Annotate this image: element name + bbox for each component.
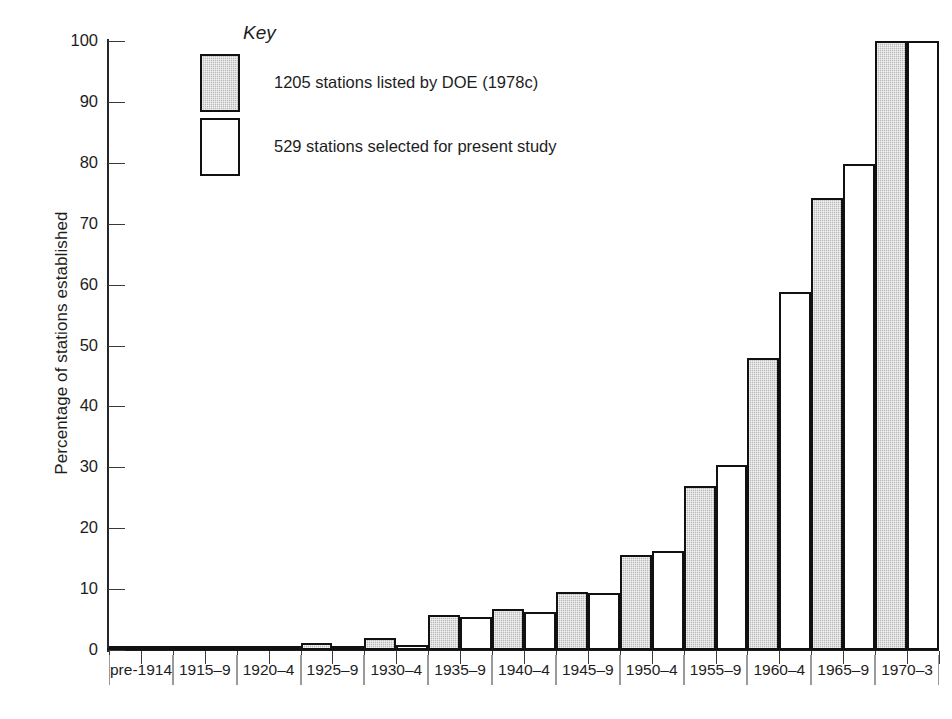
bar-open <box>588 593 620 650</box>
y-tick-label: 60 <box>52 275 98 294</box>
y-tick-label: 50 <box>52 336 98 355</box>
bar-shaded <box>684 486 716 650</box>
bar-open <box>524 612 556 650</box>
bar-shaded <box>364 638 396 650</box>
bar-open <box>460 617 492 650</box>
legend-swatch-shaded-icon <box>200 54 240 112</box>
x-axis-labels: pre-19141915–91920–41925–91930–41935–919… <box>109 655 939 689</box>
bar-open <box>652 551 684 650</box>
bar-shaded <box>556 592 588 650</box>
bar-shaded <box>747 358 779 650</box>
x-axis-label: 1965–9 <box>811 655 875 685</box>
bar-group <box>684 41 748 650</box>
x-axis-label: 1915–9 <box>173 655 237 685</box>
y-tick-label: 0 <box>52 640 98 659</box>
x-tick <box>939 651 940 664</box>
y-tick-label: 80 <box>52 153 98 172</box>
bar-group <box>747 41 811 650</box>
x-axis-label: 1945–9 <box>556 655 620 685</box>
y-tick-label: 10 <box>52 579 98 598</box>
legend-item-open: 529 stations selected for present study <box>200 118 670 182</box>
bar-chart-figure: Percentage of stations established 01020… <box>0 0 952 719</box>
bar-shaded <box>109 646 141 650</box>
y-tick-label: 40 <box>52 396 98 415</box>
x-axis-label: pre-1914 <box>109 655 173 685</box>
bar-open <box>141 646 173 650</box>
legend-label-open: 529 stations selected for present study <box>274 137 557 156</box>
y-tick-label: 20 <box>52 518 98 537</box>
bar-shaded <box>428 615 460 650</box>
bar-group <box>109 41 173 650</box>
bar-shaded <box>620 555 652 650</box>
y-tick-label: 30 <box>52 457 98 476</box>
legend-item-shaded: 1205 stations listed by DOE (1978c) <box>200 54 670 118</box>
y-tick-label: 70 <box>52 214 98 233</box>
bar-shaded <box>811 198 843 650</box>
x-axis-label: 1950–4 <box>620 655 684 685</box>
bar-shaded <box>492 609 524 650</box>
bar-shaded <box>237 646 269 650</box>
bar-open <box>269 646 301 650</box>
bar-open <box>332 646 364 650</box>
bar-shaded <box>173 646 205 650</box>
x-axis-label: 1925–9 <box>301 655 365 685</box>
bar-shaded <box>875 41 907 650</box>
legend-label-shaded: 1205 stations listed by DOE (1978c) <box>274 73 538 92</box>
x-axis-label: 1940–4 <box>492 655 556 685</box>
x-axis-label: 1970–3 <box>875 655 939 685</box>
legend-swatch-open-icon <box>200 118 240 176</box>
bar-open <box>843 164 875 650</box>
bar-open <box>396 645 428 650</box>
bar-group <box>875 41 939 650</box>
y-tick-label: 100 <box>52 31 98 50</box>
legend: Key 1205 stations listed by DOE (1978c) … <box>200 22 670 182</box>
x-axis-label: 1930–4 <box>364 655 428 685</box>
legend-title: Key <box>243 22 670 44</box>
bar-open <box>779 292 811 650</box>
bar-group <box>811 41 875 650</box>
x-axis-label: 1935–9 <box>428 655 492 685</box>
x-axis-label: 1960–4 <box>747 655 811 685</box>
y-tick-label: 90 <box>52 92 98 111</box>
bar-open <box>907 41 939 650</box>
bar-shaded <box>301 643 333 650</box>
bar-open <box>716 465 748 650</box>
x-axis-label: 1920–4 <box>237 655 301 685</box>
x-axis-label: 1955–9 <box>684 655 748 685</box>
bar-open <box>205 646 237 650</box>
